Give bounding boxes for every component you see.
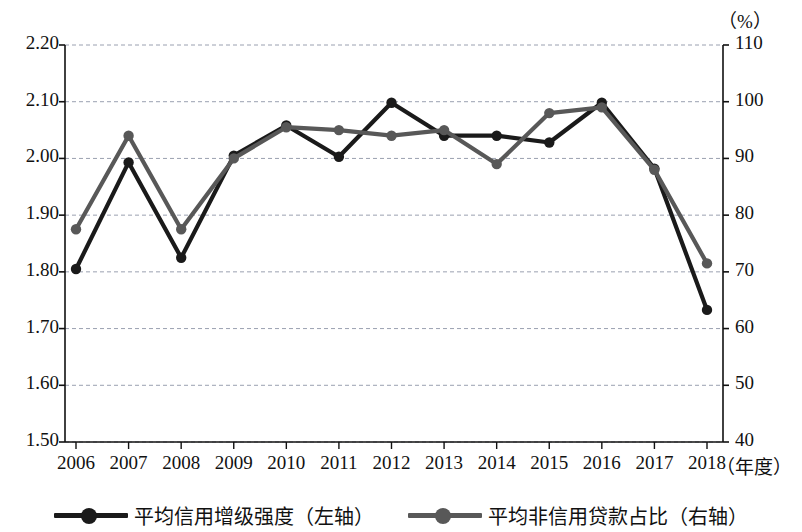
x-axis-tick-label: 2016 bbox=[572, 452, 632, 474]
data-point-marker bbox=[281, 122, 291, 132]
data-point-marker bbox=[492, 159, 502, 169]
right-axis-tick-label: 70 bbox=[735, 259, 775, 281]
x-axis-tick-label: 2015 bbox=[519, 452, 579, 474]
data-point-marker bbox=[123, 157, 133, 167]
x-axis-tick-label: 2013 bbox=[414, 452, 474, 474]
left-axis-tick-label: 2.00 bbox=[3, 145, 59, 167]
data-point-marker bbox=[71, 264, 81, 274]
left-axis-tick-label: 2.20 bbox=[3, 32, 59, 54]
data-point-marker bbox=[334, 125, 344, 135]
data-series-group bbox=[71, 98, 712, 315]
x-axis-tick-label: 2009 bbox=[204, 452, 264, 474]
x-axis-tick-label: 2007 bbox=[99, 452, 159, 474]
data-point-marker bbox=[334, 152, 344, 162]
right-axis-tick-label: 50 bbox=[735, 372, 775, 394]
right-axis-tick-label: 90 bbox=[735, 145, 775, 167]
data-point-marker bbox=[544, 108, 554, 118]
data-point-marker bbox=[176, 253, 186, 263]
x-axis-tick-label: 2018 bbox=[677, 452, 737, 474]
chart-container: （%） （年度） 2.202.102.001.901.801.701.601.5… bbox=[0, 0, 802, 532]
data-point-marker bbox=[386, 131, 396, 141]
right-axis-unit-label: （%） bbox=[718, 6, 772, 33]
data-point-marker bbox=[71, 224, 81, 234]
data-point-marker bbox=[702, 258, 712, 268]
left-axis-tick-label: 1.60 bbox=[3, 372, 59, 394]
x-axis-tick-label: 2011 bbox=[309, 452, 369, 474]
left-axis-tick-label: 1.50 bbox=[3, 429, 59, 451]
x-axis-tick-label: 2008 bbox=[151, 452, 211, 474]
legend-marker-icon bbox=[54, 505, 128, 525]
left-axis-tick-label: 1.70 bbox=[3, 316, 59, 338]
legend-label: 平均非信用贷款占比（右轴） bbox=[482, 501, 748, 530]
data-point-marker bbox=[229, 153, 239, 163]
data-point-marker bbox=[492, 131, 502, 141]
x-axis-tick-label: 2010 bbox=[256, 452, 316, 474]
data-point-marker bbox=[386, 98, 396, 108]
data-point-marker bbox=[176, 224, 186, 234]
right-axis-tick-label: 110 bbox=[735, 32, 775, 54]
left-axis-tick-label: 1.80 bbox=[3, 259, 59, 281]
right-axis-tick-label: 40 bbox=[735, 429, 775, 451]
data-point-marker bbox=[439, 125, 449, 135]
x-axis-tick-label: 2017 bbox=[624, 452, 684, 474]
chart-legend: 平均信用增级强度（左轴）平均非信用贷款占比（右轴） bbox=[0, 498, 802, 532]
right-axis-tick-label: 80 bbox=[735, 202, 775, 224]
x-axis-tick-label: 2012 bbox=[362, 452, 422, 474]
legend-label: 平均信用增级强度（左轴） bbox=[128, 501, 374, 530]
data-point-marker bbox=[702, 305, 712, 315]
x-axis-tick-label: 2014 bbox=[467, 452, 527, 474]
x-axis-tick-label: 2006 bbox=[46, 452, 106, 474]
data-point-marker bbox=[544, 137, 554, 147]
x-axis-tick-marks bbox=[76, 442, 707, 449]
right-axis-tick-label: 100 bbox=[735, 89, 775, 111]
right-axis-tick-label: 60 bbox=[735, 316, 775, 338]
legend-item-2[interactable]: 平均非信用贷款占比（右轴） bbox=[408, 501, 748, 530]
data-point-marker bbox=[597, 102, 607, 112]
left-axis-tick-label: 1.90 bbox=[3, 202, 59, 224]
data-point-marker bbox=[123, 131, 133, 141]
left-axis-tick-label: 2.10 bbox=[3, 89, 59, 111]
legend-marker-icon bbox=[408, 505, 482, 525]
legend-item-1[interactable]: 平均信用增级强度（左轴） bbox=[54, 501, 374, 530]
data-point-marker bbox=[649, 165, 659, 175]
